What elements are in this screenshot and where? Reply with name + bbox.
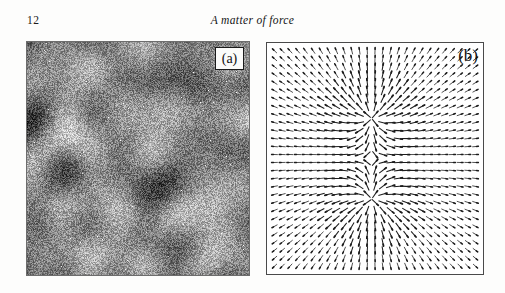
field-arrow-head (343, 267, 344, 269)
field-arrow-head (422, 64, 423, 66)
field-arrow-head (317, 203, 319, 204)
field-arrow-head (431, 105, 433, 106)
field-arrow-head (414, 64, 415, 66)
field-arrow-head (303, 73, 304, 74)
field-arrow-head (342, 88, 343, 89)
field-arrow-head (303, 97, 305, 98)
field-arrow-head (319, 64, 320, 66)
field-arrow-head (303, 64, 304, 65)
field-arrow-head (327, 251, 328, 253)
field-arrow-head (303, 259, 304, 260)
field-arrow-head (453, 81, 455, 82)
field-arrow-head (279, 195, 281, 196)
field-arrow-head (385, 113, 387, 114)
field-arrow-head (399, 236, 400, 238)
field-arrow-head (358, 236, 359, 238)
field-arrow-head (288, 73, 289, 74)
field-arrow-head (453, 267, 454, 268)
field-arrow-head (335, 267, 336, 269)
field-arrow-head (453, 97, 455, 98)
field-arrow-head (311, 80, 312, 81)
field-arrow-head (422, 259, 423, 261)
field-arrow-head (327, 267, 328, 269)
field-arrow-head (445, 73, 446, 74)
field-arrow-head (422, 243, 423, 244)
field-arrow-head (401, 113, 403, 114)
field-arrow-head (311, 235, 312, 236)
field-arrow-head (343, 260, 344, 262)
field-arrow-head (445, 267, 446, 268)
field-arrow-head (310, 113, 312, 114)
field-arrow-head (384, 212, 385, 213)
field-arrow-head (295, 81, 296, 82)
field-arrow-head (469, 89, 471, 90)
field-arrow-head (310, 89, 311, 90)
field-arrow-head (400, 96, 401, 97)
field-arrow-head (280, 97, 282, 98)
field-arrow-head (357, 103, 358, 104)
field-arrow-head (327, 244, 328, 246)
field-arrow-head (385, 132, 387, 133)
figure: (a) (b) (0, 0, 505, 293)
book-page: 12 A matter of force (a) (b) (0, 0, 505, 293)
field-arrow-head (469, 203, 471, 204)
field-arrow-head (318, 97, 320, 98)
field-arrow-head (351, 252, 352, 254)
field-arrow-head (295, 122, 297, 123)
field-arrow-head (461, 122, 463, 123)
field-arrow-head (422, 56, 423, 58)
field-arrow-head (325, 203, 327, 204)
field-arrow-head (453, 73, 454, 74)
field-arrow-head (295, 235, 297, 236)
field-arrow-head (423, 105, 425, 106)
field-arrow-head (453, 105, 455, 106)
field-arrow-head (454, 203, 456, 204)
field-arrow-head (280, 227, 282, 228)
field-arrow-head (303, 81, 304, 82)
field-arrow-head (272, 267, 273, 268)
field-arrow-head (476, 97, 478, 98)
field-arrow-head (393, 169, 395, 170)
field-arrow-head (453, 219, 455, 220)
field-arrow-head (430, 235, 431, 236)
field-arrow-head (430, 227, 431, 228)
field-arrow-head (287, 211, 289, 212)
field-arrow-head (438, 113, 440, 114)
field-arrow-head (303, 243, 304, 244)
field-arrow-head (272, 49, 273, 50)
field-arrow-head (461, 114, 463, 115)
field-arrow-head (280, 243, 282, 244)
field-arrow-head (415, 219, 417, 220)
field-arrow-head (302, 203, 304, 204)
field-arrow-head (272, 57, 273, 58)
field-arrow-head (335, 56, 336, 58)
field-arrow-head (364, 204, 366, 205)
field-arrow-head (453, 235, 455, 236)
field-arrow-head (318, 80, 319, 81)
field-arrow-head (393, 177, 395, 178)
field-arrow-head (296, 65, 297, 66)
field-arrow-head (334, 228, 335, 229)
field-arrow-head (468, 259, 469, 260)
field-arrow-head (295, 219, 297, 220)
field-arrow-head (476, 81, 478, 82)
field-arrow-head (349, 95, 350, 96)
field-arrow-head (335, 64, 336, 66)
field-arrow-head (310, 195, 312, 196)
field-arrow-head (391, 252, 392, 254)
field-arrow-head (280, 89, 282, 90)
field-arrow-head (446, 195, 448, 196)
field-arrow-head (280, 251, 281, 252)
field-arrow-head (366, 174, 367, 176)
field-arrow-head (327, 56, 328, 58)
field-arrow-head (385, 184, 386, 185)
field-arrow-head (295, 203, 297, 204)
field-arrow-head (393, 185, 395, 186)
field-arrow-head (280, 65, 281, 66)
field-arrow-head (430, 97, 432, 98)
field-arrow-head (476, 89, 478, 90)
field-arrow-head (438, 105, 440, 106)
field-arrow-head (445, 65, 446, 66)
field-arrow-head (334, 244, 335, 246)
field-arrow-head (431, 122, 433, 123)
